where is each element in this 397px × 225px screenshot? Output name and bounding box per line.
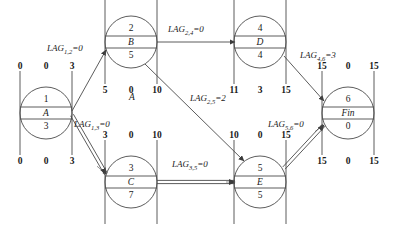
node-2-id: 2 — [116, 23, 146, 33]
node-4-bottom-float: 3 — [251, 85, 269, 95]
edge-2-5 — [145, 64, 244, 161]
node-1-late-start: 0 — [11, 156, 29, 166]
node-5-top-float: 0 — [251, 130, 269, 140]
network-diagram-canvas: 1A30030032B532850103C7301030104D48312113… — [0, 0, 397, 225]
node-5-duration: 5 — [245, 190, 275, 200]
node-4-id: 4 — [245, 23, 275, 33]
node-1-early-finish: 3 — [63, 61, 81, 71]
node-6-bottom-float: 0 — [339, 156, 357, 166]
node-1-name: A — [31, 108, 61, 118]
node-1-late-finish: 3 — [63, 156, 81, 166]
lag-label-5-6: LAG5,6=0 — [268, 119, 304, 131]
node-6-top-float: 0 — [339, 61, 357, 71]
node-6-late-start: 15 — [313, 156, 331, 166]
diagram-title-label: A — [129, 92, 135, 102]
node-5-id: 5 — [245, 163, 275, 173]
lag-label-2-5: LAG2,5=2 — [190, 93, 226, 105]
node-3-name: C — [116, 177, 146, 187]
lag-label-4-6: LAG4,6=3 — [300, 50, 336, 62]
node-6-duration: 0 — [333, 121, 363, 131]
node-5-name: E — [245, 177, 275, 187]
node-3-top-float: 0 — [122, 130, 140, 140]
node-4-duration: 4 — [245, 50, 275, 60]
edge-3-5 — [157, 180, 235, 183]
node-3-duration: 7 — [116, 190, 146, 200]
node-2-late-finish: 10 — [148, 85, 166, 95]
node-3-early-finish: 10 — [148, 130, 166, 140]
node-1-top-float: 0 — [37, 61, 55, 71]
node-5-early-finish: 15 — [277, 130, 295, 140]
node-6-early-finish: 15 — [365, 61, 383, 71]
node-4-late-finish: 15 — [277, 85, 295, 95]
node-3-id: 3 — [116, 163, 146, 173]
node-4-late-start: 11 — [225, 85, 243, 95]
node-1-early-start: 0 — [11, 61, 29, 71]
node-2-name: B — [116, 37, 146, 47]
node-6-name: Fin — [333, 108, 363, 118]
node-6-early-start: 15 — [313, 61, 331, 71]
edge-1-2 — [72, 50, 106, 111]
lag-label-1-3: LAG1,3=0 — [74, 119, 110, 131]
node-6-id: 6 — [333, 94, 363, 104]
node-4-name: D — [245, 37, 275, 47]
lag-label-1-2: LAG1,2=0 — [47, 43, 83, 55]
node-2-late-start: 5 — [96, 85, 114, 95]
node-3-early-start: 3 — [96, 130, 114, 140]
node-2-duration: 5 — [116, 50, 146, 60]
node-6-late-finish: 15 — [365, 156, 383, 166]
lag-label-2-4: LAG2,4=0 — [168, 24, 204, 36]
node-1-duration: 3 — [31, 121, 61, 131]
node-1-id: 1 — [31, 94, 61, 104]
node-5-early-start: 10 — [225, 130, 243, 140]
lag-label-3-5: LAG3,5=0 — [172, 159, 208, 171]
node-1-bottom-float: 0 — [37, 156, 55, 166]
